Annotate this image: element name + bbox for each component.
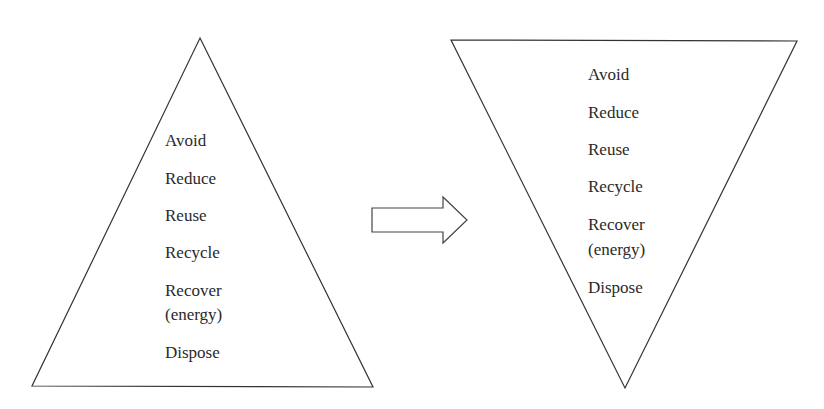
right-item-recover: Recover — [588, 215, 645, 235]
inverted-triangle — [451, 40, 797, 388]
left-item-dispose: Dispose — [165, 343, 220, 363]
right-item-dispose: Dispose — [588, 278, 643, 298]
left-item-reduce: Reduce — [165, 169, 216, 189]
right-item-recycle: Recycle — [588, 177, 643, 197]
right-arrow-icon — [372, 197, 467, 243]
diagram-canvas — [0, 0, 824, 409]
right-item-avoid: Avoid — [588, 65, 629, 85]
left-item-avoid: Avoid — [165, 131, 206, 151]
left-item-reuse: Reuse — [165, 206, 207, 226]
right-item-reuse: Reuse — [588, 140, 630, 160]
left-item-recycle: Recycle — [165, 243, 220, 263]
right-item-energy: (energy) — [588, 240, 645, 260]
left-item-recover: Recover — [165, 281, 222, 301]
left-item-energy: (energy) — [165, 305, 222, 325]
right-item-reduce: Reduce — [588, 103, 639, 123]
